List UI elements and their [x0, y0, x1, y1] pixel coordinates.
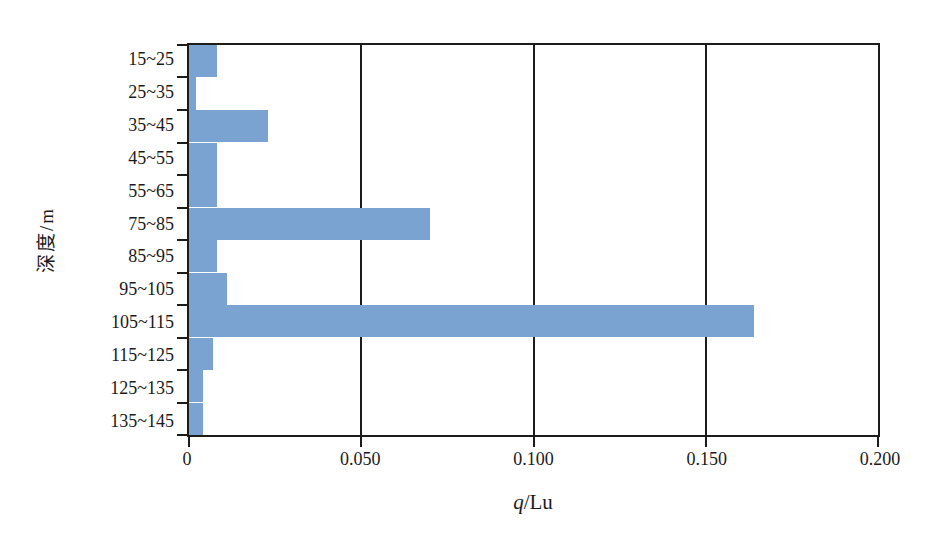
bar	[189, 305, 754, 337]
y-axis-tick	[177, 402, 187, 404]
y-axis-tick-label: 35~45	[128, 116, 174, 134]
gridline	[360, 45, 362, 435]
gridline	[705, 45, 707, 435]
bar	[189, 45, 217, 77]
x-axis-title-unit: /Lu	[524, 490, 553, 514]
x-axis-title: q/Lu	[513, 492, 553, 513]
y-axis-tick-label: 25~35	[128, 83, 174, 101]
x-axis-tick	[877, 437, 879, 447]
y-axis-tick-label: 15~25	[128, 50, 174, 68]
y-axis-tick	[177, 369, 187, 371]
y-axis-tick	[177, 304, 187, 306]
x-axis-tick	[188, 437, 190, 447]
x-axis-tick	[533, 437, 535, 447]
x-axis-title-symbol: q	[513, 490, 524, 514]
y-axis-tick-label: 95~105	[119, 280, 174, 298]
x-axis-tick	[360, 437, 362, 447]
y-axis-tick-label: 55~65	[128, 182, 174, 200]
bar	[189, 110, 268, 142]
y-axis-tick	[177, 239, 187, 241]
y-axis-tick-label: 105~115	[111, 313, 174, 331]
gridline	[533, 45, 535, 435]
y-axis-tick-label: 125~135	[110, 379, 174, 397]
y-axis-tick	[177, 76, 187, 78]
y-axis-tick-label: 45~55	[128, 149, 174, 167]
bar-chart-figure: 深度/m 15~2525~3535~4545~5555~6575~8585~95…	[0, 0, 925, 549]
bar	[189, 143, 217, 175]
x-axis-tick-label: 0.050	[340, 450, 381, 468]
bar	[189, 240, 217, 272]
bar	[189, 370, 203, 402]
y-axis-labels: 15~2525~3535~4545~5555~6575~8585~9595~10…	[0, 43, 174, 437]
x-axis-tick-label: 0.150	[687, 450, 728, 468]
y-axis-tick-label: 85~95	[128, 247, 174, 265]
bar	[189, 338, 213, 370]
bar	[189, 175, 217, 207]
y-axis-tick	[177, 337, 187, 339]
plot-area	[187, 43, 880, 437]
y-axis-tick	[177, 44, 187, 46]
x-axis-tick-label: 0.100	[513, 450, 554, 468]
bar	[189, 208, 430, 240]
x-axis-tick-label: 0.200	[860, 450, 901, 468]
y-axis-tick	[177, 174, 187, 176]
y-axis-tick	[177, 272, 187, 274]
y-axis-tick	[177, 142, 187, 144]
bar	[189, 273, 227, 305]
y-axis-tick-label: 115~125	[111, 346, 174, 364]
bar	[189, 77, 196, 109]
x-axis-tick-label: 0	[183, 450, 192, 468]
y-axis-tick-label: 135~145	[110, 412, 174, 430]
y-axis-tick	[177, 207, 187, 209]
x-axis-tick	[705, 437, 707, 447]
bar	[189, 403, 203, 435]
x-axis-labels: 00.0500.1000.1500.200	[187, 450, 880, 476]
y-axis-tick	[177, 434, 187, 436]
y-axis-tick-label: 75~85	[128, 215, 174, 233]
y-axis-tick	[177, 109, 187, 111]
